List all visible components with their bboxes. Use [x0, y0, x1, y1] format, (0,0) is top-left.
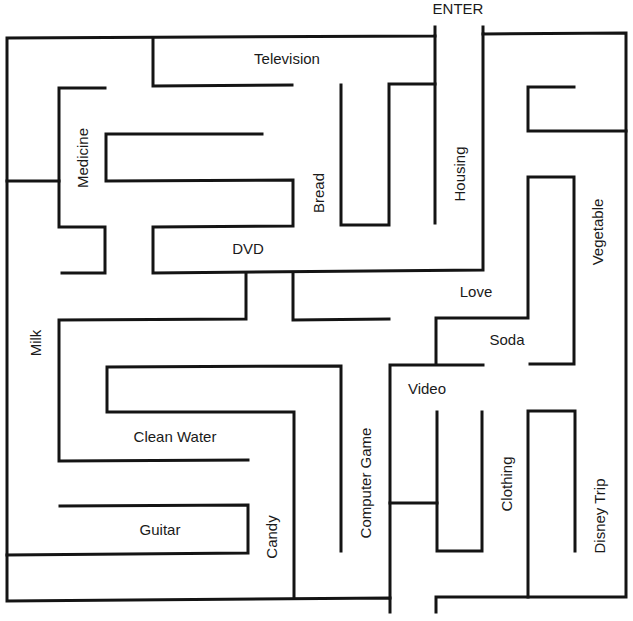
label-clean-water: Clean Water: [134, 428, 217, 445]
wall-clothing: [437, 412, 482, 551]
label-soda: Soda: [489, 331, 525, 348]
wall-dvd-right: [293, 273, 389, 320]
label-guitar: Guitar: [140, 521, 181, 538]
label-video: Video: [408, 380, 446, 397]
label-love: Love: [460, 283, 493, 300]
label-candy: Candy: [263, 515, 280, 559]
wall-guitar: [7, 505, 248, 555]
maze-labels: ENTER Television Medicine Bread Housing …: [27, 0, 608, 559]
wall-bread: [341, 84, 435, 225]
label-disney-trip: Disney Trip: [591, 478, 608, 553]
label-computer-game: Computer Game: [357, 428, 374, 539]
label-housing: Housing: [451, 146, 468, 201]
label-vegetable: Vegetable: [589, 199, 606, 266]
wall-clean-water: [107, 366, 341, 598]
wall-hook: [528, 87, 626, 131]
label-dvd: DVD: [232, 240, 264, 257]
enter-label: ENTER: [433, 0, 484, 17]
wall-disney-trip: [528, 411, 575, 597]
wall-housing-right: [106, 34, 483, 273]
label-television: Television: [254, 50, 320, 67]
label-clothing: Clothing: [498, 456, 515, 511]
label-medicine: Medicine: [74, 128, 91, 188]
label-milk: Milk: [27, 329, 44, 356]
maze-walls: [7, 27, 626, 612]
maze-diagram: ENTER Television Medicine Bread Housing …: [0, 0, 633, 621]
label-bread: Bread: [310, 173, 327, 213]
